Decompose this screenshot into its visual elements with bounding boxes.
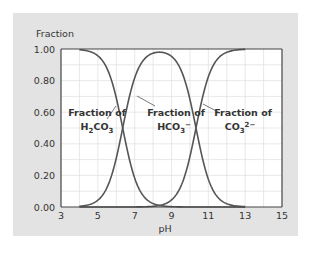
y-tick-label: 0.00: [34, 202, 55, 213]
y-tick-label: 0.40: [34, 138, 55, 149]
annotation-hco3-line1: Fraction of: [147, 107, 206, 118]
y-tick-label: 0.20: [34, 170, 55, 181]
y-tick-labels: 0.000.200.400.600.801.00: [34, 44, 55, 213]
x-axis-label: pH: [158, 223, 171, 234]
x-tick-label: 7: [132, 210, 138, 221]
x-tick-label: 9: [168, 210, 174, 221]
x-tick-label: 3: [58, 210, 64, 221]
y-tick-label: 0.60: [34, 107, 55, 118]
x-tick-label: 11: [202, 210, 214, 221]
y-axis-label: Fraction: [36, 28, 74, 39]
y-tick-label: 0.80: [34, 75, 55, 86]
annotation-co3-line1: Fraction of: [214, 107, 273, 118]
annotation-h2co3-line1: Fraction of: [68, 107, 127, 118]
x-tick-labels: 3579111315: [58, 210, 288, 221]
x-tick-label: 13: [239, 210, 251, 221]
y-tick-label: 1.00: [34, 44, 55, 55]
x-tick-label: 5: [95, 210, 101, 221]
x-tick-label: 15: [276, 210, 288, 221]
speciation-chart: 0.000.200.400.600.801.00 3579111315 Frac…: [0, 0, 313, 261]
